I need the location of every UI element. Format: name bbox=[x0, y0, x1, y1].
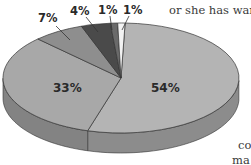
slice-label-33: 33% bbox=[53, 81, 82, 95]
slice-label-4: 4% bbox=[70, 4, 90, 18]
slice-label-1b: 1% bbox=[123, 3, 143, 17]
page-text-bottom-right-2: ma bbox=[232, 153, 250, 165]
slice-label-1a: 1% bbox=[98, 3, 118, 17]
page-text-bottom-right-1: co bbox=[238, 138, 251, 152]
page-text-top-right: or she has war bbox=[169, 3, 251, 17]
pie-top bbox=[3, 23, 239, 133]
slice-label-7: 7% bbox=[38, 11, 58, 25]
slice-label-54: 54% bbox=[151, 81, 180, 95]
